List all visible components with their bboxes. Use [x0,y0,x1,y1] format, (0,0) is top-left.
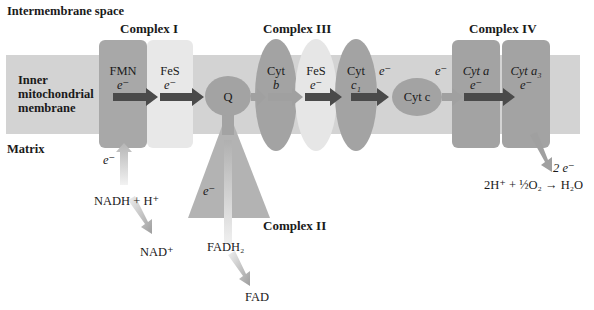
cyt-c1-text: Cyt c₁ [335,64,377,92]
cyt-a3-name: Cyt a₃ [502,64,550,78]
nadh-electron: e⁻ [103,152,115,168]
electron-c1-to-cytc: e⁻ [378,64,392,78]
complex-ii-label: Complex II [263,218,326,234]
complex-iv-label: Complex IV [469,21,537,37]
nadh-label: NADH + H⁺ [94,193,159,209]
electron-cytc-to-c4: e⁻ [434,64,448,78]
cyt-b-text: Cyt b [255,64,297,92]
cyt-a3-electron: e⁻ [502,78,550,92]
fad-label: FAD [245,290,269,305]
two-electrons-label: 2 e⁻ [553,160,575,176]
fad-diagonal-arrow [228,251,250,286]
cyt-b-sub: b [255,78,297,92]
fadh2-electron-path [224,140,232,244]
oxygen-reaction: 2H⁺ + ½O₂ → H₂O [484,177,583,193]
cyt-a-electron: e⁻ [452,78,500,92]
complex-iii-label: Complex III [263,21,331,37]
cyt-a-text: Cyt a e⁻ [452,64,500,92]
fadh2-label: FADH₂ [207,240,244,255]
fes-name-iii: FeS [295,64,337,78]
cyt-c-text: Cyt c [392,90,442,104]
diagram-shapes [0,0,594,310]
nadh-up-arrow [116,143,132,185]
cyt-c1-sub: c₁ [335,78,377,92]
q-text: Q [205,90,251,104]
complex-ii-electron: e⁻ [202,184,216,198]
cyt-a3-text: Cyt a₃ e⁻ [502,64,550,92]
cyt-a-name: Cyt a [452,64,500,78]
fes-text-complex-iii: FeS e⁻ [295,64,337,92]
nad-label: NAD⁺ [140,244,174,260]
cyt-b-name: Cyt [255,64,297,78]
cyt-c1-name: Cyt [335,64,377,78]
fes-electron-iii: e⁻ [295,78,337,92]
